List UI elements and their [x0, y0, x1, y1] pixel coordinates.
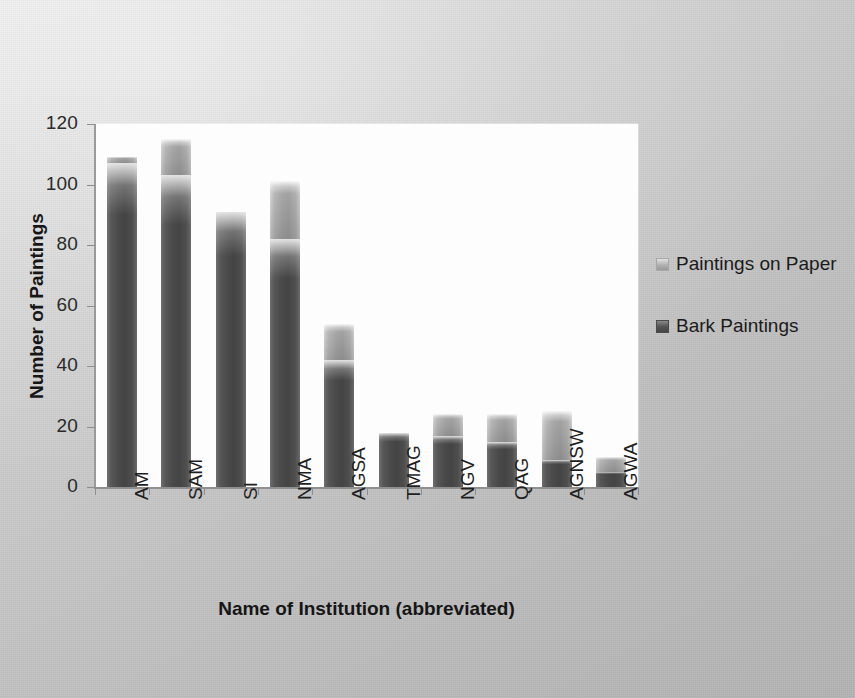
y-axis-tick [87, 427, 95, 428]
bar-column [487, 124, 517, 487]
x-axis-label-nma: NMA [294, 458, 316, 500]
y-axis-tick-label: 120 [34, 112, 78, 134]
x-axis-label-sam: SAM [185, 459, 207, 500]
y-axis-tick [87, 306, 95, 307]
x-axis-tick [95, 488, 96, 495]
bar-column [596, 124, 626, 487]
bar-segment-bark-paintings [216, 212, 246, 487]
y-axis-tick [87, 366, 95, 367]
y-axis-tick-label: 0 [34, 475, 78, 497]
legend-label-paintings-on-paper: Paintings on Paper [676, 253, 837, 275]
y-axis-tick [87, 185, 95, 186]
x-axis-label-si: SI [240, 482, 262, 500]
x-axis-title: Name of Institution (abbreviated) [95, 598, 638, 620]
y-axis-tick [87, 124, 95, 125]
bar-segment-paintings-on-paper [433, 414, 463, 435]
x-axis-label-agwa: AGWA [620, 443, 642, 500]
bar-segment-paintings-on-paper [270, 181, 300, 238]
x-axis-label-ngv: NGV [457, 459, 479, 500]
legend-item-bark-paintings: Bark Paintings [656, 314, 852, 338]
legend-swatch-bark-icon [656, 320, 669, 333]
bar-column [433, 124, 463, 487]
bar-column [107, 124, 137, 487]
bar-column [161, 124, 191, 487]
bar-segment-bark-paintings [270, 239, 300, 487]
scanned-page-background: 020406080100120 AMSAMSINMAAGSATMAGNGVQAG… [0, 0, 855, 698]
chart-legend: Paintings on Paper Bark Paintings [656, 252, 852, 376]
x-axis-label-agnsw: AGNSW [566, 428, 588, 500]
x-axis-label-am: AM [131, 472, 153, 501]
bar-column [324, 124, 354, 487]
x-axis-label-agsa: AGSA [348, 447, 370, 500]
bar-segment-paintings-on-paper [487, 414, 517, 441]
stacked-bar-chart: 020406080100120 AMSAMSINMAAGSATMAGNGVQAG… [0, 0, 855, 698]
bar-column [379, 124, 409, 487]
y-axis-title: Number of Paintings [26, 191, 48, 421]
legend-label-bark-paintings: Bark Paintings [676, 315, 799, 337]
x-axis-label-qag: QAG [511, 458, 533, 500]
legend-item-paintings-on-paper: Paintings on Paper [656, 252, 852, 276]
y-axis-tick [87, 487, 95, 488]
bar-segment-paintings-on-paper [107, 157, 137, 163]
bar-segment-paintings-on-paper [324, 324, 354, 360]
bar-segment-bark-paintings [107, 163, 137, 487]
bar-column [216, 124, 246, 487]
legend-swatch-paper-icon [656, 258, 669, 271]
bar-segment-paintings-on-paper [161, 139, 191, 175]
y-axis-tick [87, 245, 95, 246]
bar-segment-bark-paintings [161, 175, 191, 487]
x-axis-label-tmag: TMAG [403, 445, 425, 500]
bar-column [270, 124, 300, 487]
